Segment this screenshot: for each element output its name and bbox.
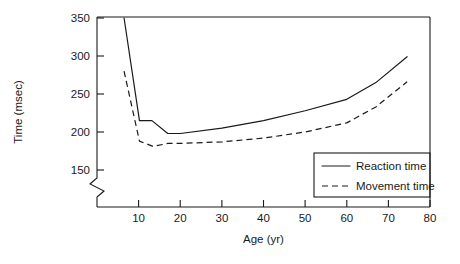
x-tick-label: 30 — [216, 212, 229, 224]
data-series-group — [124, 18, 407, 146]
x-tick-label: 50 — [299, 212, 312, 224]
x-tick-label: 80 — [424, 212, 437, 224]
y-axis-ticks — [97, 18, 104, 170]
chart-legend: Reaction time Movement time — [314, 153, 435, 197]
x-tick-label: 70 — [382, 212, 395, 224]
chart-svg: 350 300 250 200 150 10 20 30 40 50 60 70 — [0, 0, 460, 264]
x-tick-label: 60 — [340, 212, 353, 224]
y-tick-label: 350 — [71, 12, 90, 24]
y-axis-tick-labels: 350 300 250 200 150 — [71, 12, 90, 176]
y-tick-label: 300 — [71, 50, 90, 62]
legend-label-movement-time: Movement time — [356, 180, 435, 192]
series-movement-time — [124, 71, 407, 146]
chart-figure: 350 300 250 200 150 10 20 30 40 50 60 70 — [0, 0, 460, 264]
legend-label-reaction-time: Reaction time — [356, 160, 426, 172]
x-axis-ticks — [139, 200, 430, 207]
y-axis-title: Time (msec) — [12, 80, 24, 144]
y-tick-label: 250 — [71, 88, 90, 100]
y-tick-label: 150 — [71, 164, 90, 176]
x-tick-label: 10 — [132, 212, 145, 224]
x-axis-tick-labels: 10 20 30 40 50 60 70 80 — [132, 212, 436, 224]
series-reaction-time — [124, 18, 407, 134]
x-axis-title: Age (yr) — [243, 233, 284, 245]
x-tick-label: 20 — [174, 212, 187, 224]
x-tick-label: 40 — [257, 212, 270, 224]
plot-frame — [90, 17, 430, 207]
y-tick-label: 200 — [71, 126, 90, 138]
